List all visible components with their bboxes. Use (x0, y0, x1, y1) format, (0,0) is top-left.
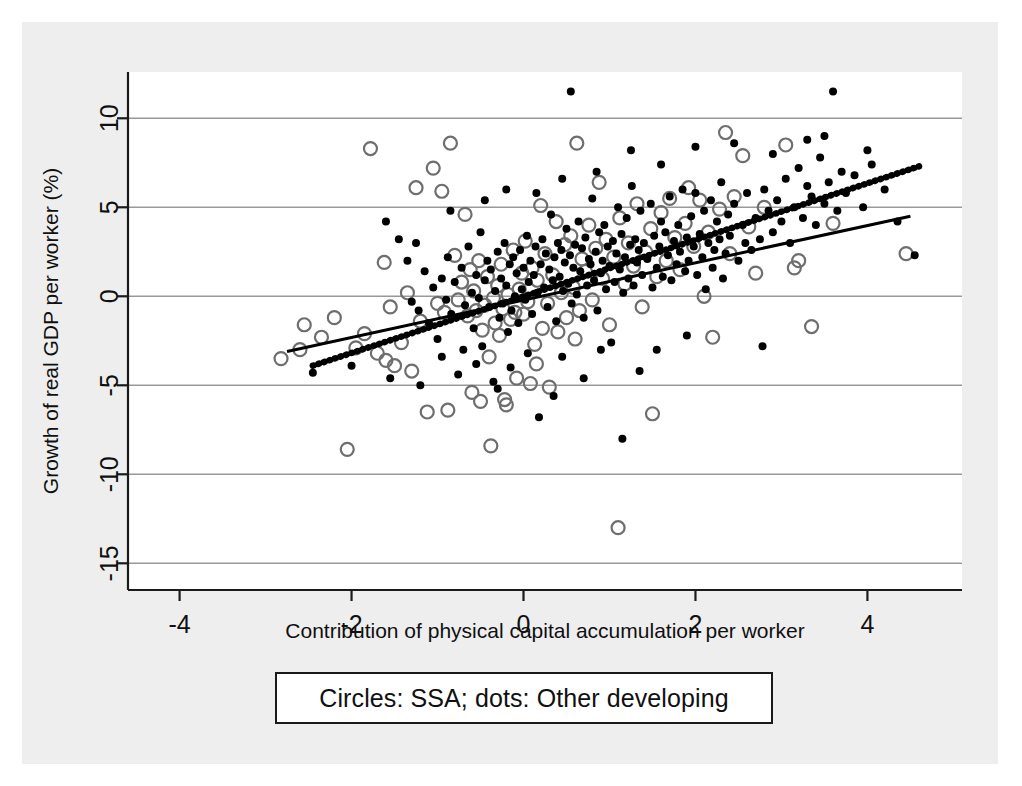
data-point-dot (537, 260, 545, 268)
data-point-dot (438, 274, 446, 282)
data-point-dot (502, 185, 510, 193)
data-point-dot (726, 232, 734, 240)
data-point-dot (707, 196, 715, 204)
data-point-dot (562, 225, 570, 233)
data-point-dot (674, 221, 682, 229)
data-point-dot (442, 296, 450, 304)
data-point-dot (741, 239, 749, 247)
data-point-dot (550, 392, 558, 400)
data-point-dot (687, 212, 695, 220)
data-point-dot (516, 246, 524, 254)
y-tick-label: -15 (95, 545, 123, 581)
data-point-dot (803, 182, 811, 190)
data-point-dot (483, 257, 491, 265)
data-point-dot (623, 214, 631, 222)
data-point-dot (403, 257, 411, 265)
data-point-dot (759, 342, 767, 350)
x-tick-label: -4 (168, 610, 190, 638)
data-point-dot (777, 218, 785, 226)
y-tick-label: 10 (95, 104, 123, 132)
data-point-dot (545, 266, 553, 274)
data-point-dot (580, 374, 588, 382)
data-point-dot (459, 346, 467, 354)
data-point-dot (631, 235, 639, 243)
data-point-dot (681, 267, 689, 275)
data-point-dot (461, 301, 469, 309)
data-point-dot (795, 164, 803, 172)
data-point-dot (614, 203, 622, 211)
x-tick-label: 4 (860, 610, 874, 638)
data-point-dot (593, 168, 601, 176)
data-point-dot (429, 283, 437, 291)
data-point-dot (464, 242, 472, 250)
data-point-dot (525, 278, 533, 286)
data-point-dot (451, 278, 459, 286)
data-point-dot (724, 210, 732, 218)
data-point-dot (602, 285, 610, 293)
data-point-dot (829, 88, 837, 96)
data-point-dot (782, 175, 790, 183)
data-point-dot (558, 175, 566, 183)
data-point-dot (595, 228, 603, 236)
data-point-dot (588, 194, 596, 202)
data-point-dot (667, 276, 675, 284)
data-point-dot (438, 353, 446, 361)
data-point-dot (526, 257, 534, 265)
data-point-dot (494, 248, 502, 256)
data-point-dot (567, 88, 575, 96)
data-point-dot (446, 207, 454, 215)
data-point-dot (481, 196, 489, 204)
figure-root: 1050-5-10-15 -4-2024 Contribution of phy… (0, 0, 1022, 786)
data-point-dot (557, 246, 565, 254)
data-point-dot (532, 189, 540, 197)
data-point-dot (833, 207, 841, 215)
data-point-dot (547, 210, 555, 218)
data-point-dot (648, 283, 656, 291)
data-point-dot (489, 378, 497, 386)
data-point-dot (592, 248, 600, 256)
data-point-dot (481, 276, 489, 284)
data-point-dot (700, 207, 708, 215)
data-point-dot (730, 200, 738, 208)
data-point-dot (859, 203, 867, 211)
data-point-dot (597, 346, 605, 354)
data-point-dot (911, 251, 919, 259)
data-point-dot (659, 273, 667, 281)
data-point-dot (730, 139, 738, 147)
data-point-dot (702, 285, 710, 293)
data-point-dot (544, 303, 552, 311)
data-point-dot (468, 289, 476, 297)
data-point-dot (494, 385, 502, 393)
data-point-dot (609, 237, 617, 245)
y-tick-label: 5 (95, 200, 123, 214)
data-point-dot (719, 274, 727, 282)
data-point-dot (434, 335, 442, 343)
data-point-dot (743, 189, 751, 197)
data-point-dot (769, 150, 777, 158)
scatter-plot: 1050-5-10-15 -4-2024 Contribution of phy… (0, 0, 1022, 786)
data-point-dot (472, 360, 480, 368)
data-point-dot (868, 161, 876, 169)
data-point-dot (518, 285, 526, 293)
x-axis-title: Contribution of physical capital accumul… (285, 619, 804, 642)
y-tick-labels: 1050-5-10-15 (95, 104, 123, 581)
data-point-dot (444, 253, 452, 261)
data-point-dot (760, 185, 768, 193)
data-point-dot (575, 218, 583, 226)
data-point-dot (532, 242, 540, 250)
data-point-dot (716, 235, 724, 243)
data-point-dot (704, 239, 712, 247)
data-point-dot (709, 264, 717, 272)
data-point-dot (566, 251, 574, 259)
data-point-dot (693, 271, 701, 279)
data-point-dot (552, 317, 560, 325)
data-point-dot (630, 282, 638, 290)
data-point-dot (478, 342, 486, 350)
data-point-dot (421, 267, 429, 275)
data-point-dot (636, 367, 644, 375)
data-point-dot (773, 196, 781, 204)
data-point-dot (501, 239, 509, 247)
data-point-dot (514, 319, 522, 327)
data-point-dot (881, 185, 889, 193)
data-point-dot (650, 232, 658, 240)
